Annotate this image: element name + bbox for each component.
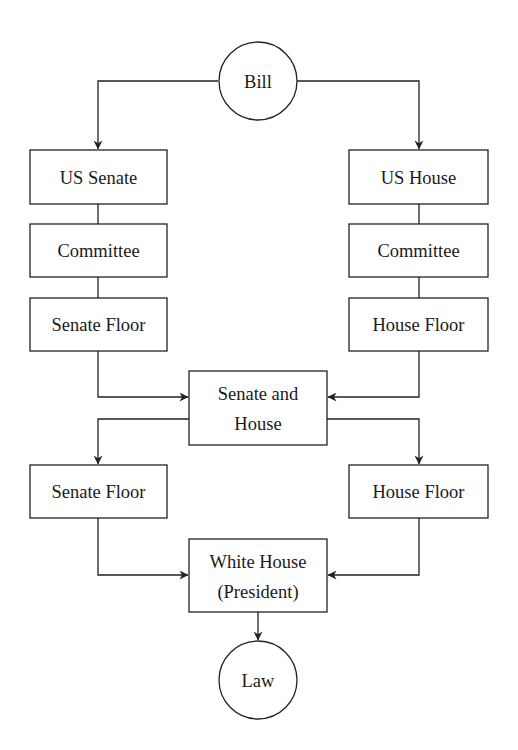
node-senate-floor-2: Senate Floor: [30, 465, 167, 518]
node-house-committee: Committee: [349, 224, 488, 277]
bill-label: Bill: [244, 72, 272, 92]
node-us-house: US House: [349, 150, 488, 204]
edge-bill-to-us-senate: [98, 81, 218, 149]
node-law: Law: [219, 641, 297, 719]
white-house-label-line2: (President): [217, 582, 298, 603]
house-floor-1-label: House Floor: [373, 315, 465, 335]
node-senate-committee: Committee: [30, 224, 167, 277]
us-senate-label: US Senate: [60, 168, 138, 188]
node-bill: Bill: [219, 42, 297, 120]
node-house-floor-1: House Floor: [349, 298, 488, 351]
senate-floor-2-label: Senate Floor: [51, 482, 145, 502]
white-house-label-line1: White House: [209, 552, 306, 572]
edge-bill-to-us-house: [297, 81, 419, 149]
node-house-floor-2: House Floor: [349, 465, 488, 518]
edge-senate-floor-to-senate-and-house: [98, 351, 188, 397]
us-house-label: US House: [381, 168, 457, 188]
edge-senate-and-house-to-house-floor: [327, 419, 419, 464]
node-senate-floor-1: Senate Floor: [30, 298, 167, 351]
edge-senate-floor-to-white-house: [98, 518, 188, 575]
node-senate-and-house: Senate and House: [189, 371, 327, 445]
house-committee-label: Committee: [377, 241, 459, 261]
senate-and-house-label-line1: Senate and: [218, 384, 299, 404]
flowchart-diagram: Bill US Senate US House Committee Commit…: [0, 0, 518, 750]
edge-house-floor-to-white-house: [328, 518, 419, 575]
law-label: Law: [242, 671, 276, 691]
senate-committee-label: Committee: [57, 241, 139, 261]
senate-floor-1-label: Senate Floor: [51, 315, 145, 335]
senate-and-house-label-line2: House: [234, 414, 281, 434]
node-us-senate: US Senate: [30, 150, 167, 204]
edge-house-floor-to-senate-and-house: [328, 351, 419, 397]
edge-senate-and-house-to-senate-floor: [98, 419, 189, 464]
node-white-house: White House (President): [189, 539, 327, 612]
house-floor-2-label: House Floor: [373, 482, 465, 502]
